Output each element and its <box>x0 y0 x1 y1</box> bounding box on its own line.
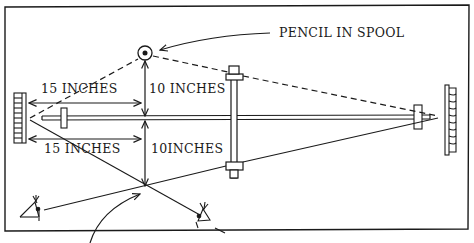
intersection-pointer-arrow <box>90 194 140 243</box>
pencil-spool <box>138 46 152 60</box>
left-mirror <box>14 93 26 143</box>
bottom-horizontal-distance-label: 15 INCHES <box>44 143 121 156</box>
top-horizontal-distance-label: 15 INCHES <box>41 83 118 96</box>
pencil-in-spool-label: PENCIL IN SPOOL <box>279 27 404 40</box>
top-vertical-distance-label: 10 INCHES <box>149 83 226 96</box>
left-eye-icon <box>20 195 40 221</box>
left-rod-block <box>61 108 67 128</box>
spool-pointer-arrow <box>160 33 270 50</box>
right-eye-icon <box>196 202 210 228</box>
vertical-post <box>226 66 243 178</box>
right-rod-block <box>414 105 422 129</box>
right-mirror <box>445 85 456 155</box>
bottom-vertical-distance-label: 10INCHES <box>151 143 223 156</box>
dimension-arrows <box>29 61 145 186</box>
